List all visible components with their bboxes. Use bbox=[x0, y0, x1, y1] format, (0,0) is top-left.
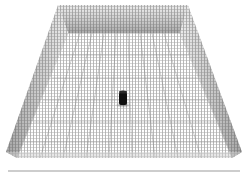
front-rim bbox=[6, 152, 242, 158]
arena-scene bbox=[0, 0, 248, 173]
back-wall bbox=[58, 5, 188, 33]
